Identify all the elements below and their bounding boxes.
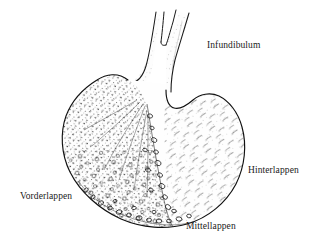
- gland-body: [55, 70, 255, 240]
- label-mittellappen: Mittellappen: [186, 222, 236, 232]
- gland-drawing: [0, 0, 319, 247]
- label-infundibulum: Infundibulum: [207, 41, 260, 51]
- label-vorderlappen: Vorderlappen: [20, 192, 72, 202]
- label-hinterlappen: Hinterlappen: [248, 166, 299, 176]
- pituitary-gland-figure: Infundibulum Hinterlappen Vorderlappen M…: [0, 0, 319, 247]
